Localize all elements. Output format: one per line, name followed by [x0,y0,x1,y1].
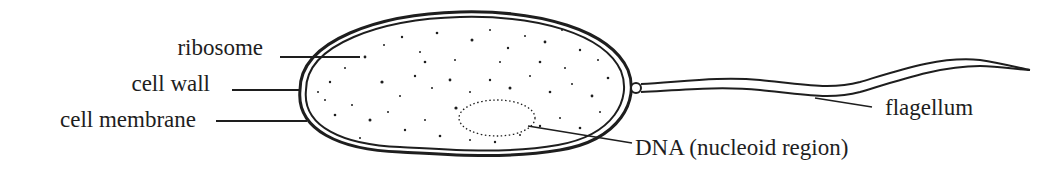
flagellum-leader [815,98,872,107]
nucleoid-region [459,100,535,136]
label-dna: DNA (nucleoid region) [635,135,848,160]
label-flagellum: flagellum [885,95,973,120]
label-cell-membrane: cell membrane [60,107,196,132]
bacterium-diagram: ribosome cell wall cell membrane DNA (nu… [0,0,1057,171]
cell-membrane-outline [306,17,624,151]
label-ribosome: ribosome [177,35,263,60]
flagellum-basal-body [631,83,641,93]
flagellum [641,59,1030,86]
label-cell-wall: cell wall [131,71,210,96]
